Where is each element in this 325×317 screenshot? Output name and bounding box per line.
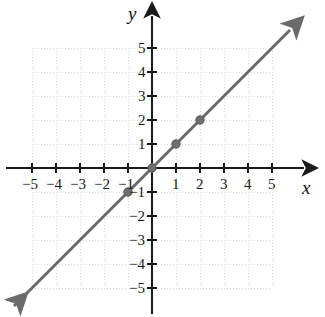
x-tick-label: 5 [268, 177, 276, 192]
coordinate-plane-figure: −5−4−3−2−112345 54321−1−2−3−4−5 y x [0, 0, 325, 317]
x-tick-label: −4 [46, 177, 62, 192]
data-point [172, 140, 180, 148]
x-tick-label: 1 [172, 177, 180, 192]
data-point [196, 116, 204, 124]
y-tick-label: −1 [129, 185, 145, 200]
y-axis-label: y [128, 4, 136, 23]
y-tick-label: −5 [129, 281, 145, 296]
x-tick-label: −2 [94, 177, 110, 192]
y-tick-label: −3 [129, 233, 145, 248]
x-tick-label: 2 [196, 177, 204, 192]
y-tick-label: 5 [138, 41, 146, 56]
y-tick-label: 2 [138, 113, 146, 128]
y-tick-label: −4 [129, 257, 145, 272]
x-tick-label: −3 [70, 177, 86, 192]
x-tick-label: 4 [244, 177, 252, 192]
x-axis-label: x [302, 178, 310, 197]
x-tick-label: −5 [22, 177, 38, 192]
data-point [148, 164, 156, 172]
y-tick-label: 4 [138, 65, 146, 80]
graph-canvas [0, 0, 325, 317]
y-tick-label: 1 [138, 137, 146, 152]
y-tick-label: −2 [129, 209, 145, 224]
x-tick-label: 3 [220, 177, 228, 192]
y-tick-label: 3 [138, 89, 146, 104]
